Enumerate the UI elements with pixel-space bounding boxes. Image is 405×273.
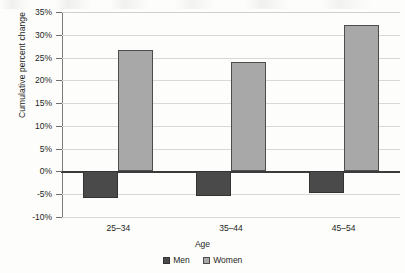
scan-artifact xyxy=(0,0,405,9)
y-axis-tick-label: -10% xyxy=(6,213,52,222)
y-axis-tick-label: 25% xyxy=(6,54,52,63)
legend-item-women: Women xyxy=(203,255,243,265)
bar-men-0 xyxy=(83,171,118,197)
plot-area xyxy=(62,12,400,217)
y-axis-tick xyxy=(56,194,62,195)
y-axis-tick-label: 15% xyxy=(6,99,52,108)
bar-women-1 xyxy=(231,62,266,172)
x-axis-tick-label: 35–44 xyxy=(186,223,276,233)
bar-chart: Cumulative percent change 35%30%25%20%15… xyxy=(0,0,405,273)
y-axis-tick-label: 35% xyxy=(6,8,52,17)
y-axis-tick xyxy=(56,217,62,218)
chart-legend: Men Women xyxy=(0,255,405,265)
gridline xyxy=(62,217,400,218)
legend-swatch-women-icon xyxy=(203,257,210,264)
legend-label-women: Women xyxy=(213,255,242,265)
x-axis-tick-label: 45–54 xyxy=(299,223,389,233)
y-axis-tick xyxy=(56,103,62,104)
y-axis-tick xyxy=(56,58,62,59)
legend-item-men: Men xyxy=(163,255,190,265)
legend-label-men: Men xyxy=(173,255,190,265)
y-axis-tick xyxy=(56,80,62,81)
y-axis-tick-label: -5% xyxy=(6,190,52,199)
x-axis-title: Age xyxy=(0,239,405,249)
y-axis-tick-label: 10% xyxy=(6,122,52,131)
y-axis-tick-label: 20% xyxy=(6,76,52,85)
y-axis-tick xyxy=(56,149,62,150)
x-axis-tick-label: 25–34 xyxy=(73,223,163,233)
y-axis-tick xyxy=(56,12,62,13)
y-axis-tick xyxy=(56,35,62,36)
y-axis-tick-label: 5% xyxy=(6,145,52,154)
y-axis-tick-label: 30% xyxy=(6,31,52,40)
y-axis-tick xyxy=(56,126,62,127)
bar-women-2 xyxy=(344,25,379,171)
bar-men-1 xyxy=(196,171,231,196)
gridline xyxy=(62,12,400,13)
y-axis-tick xyxy=(56,171,62,172)
bar-women-0 xyxy=(118,50,153,172)
bar-men-2 xyxy=(309,171,344,192)
y-axis-tick-label: 0% xyxy=(6,167,52,176)
legend-swatch-men-icon xyxy=(163,257,170,264)
